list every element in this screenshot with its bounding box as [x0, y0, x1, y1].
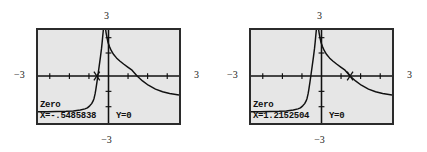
calculator-screens-page: 3 −3 3 −3: [0, 0, 427, 152]
calculator-screen-right[interactable]: Zero X=1.2152504 Y=0: [249, 28, 394, 125]
window-ymin-label: −3: [0, 135, 213, 145]
calculator-panel-right: 3 −3 3 −3: [213, 0, 426, 152]
calculator-screen-left[interactable]: Zero X=-.5485838 Y=0: [36, 28, 181, 125]
curve-right-branch: [106, 30, 179, 95]
graph-plot-right: [251, 30, 392, 123]
window-xmin-label: −3: [227, 70, 238, 80]
graph-plot-left: [38, 30, 179, 123]
curve-left-branch: [251, 30, 316, 112]
curve-left-branch: [38, 30, 103, 112]
window-ymax-label: 3: [213, 11, 426, 21]
curve-right-branch: [319, 30, 392, 95]
window-ymin-label: −3: [213, 135, 426, 145]
calculator-panel-left: 3 −3 3 −3: [0, 0, 213, 152]
window-ymax-label: 3: [0, 11, 213, 21]
window-xmax-label: 3: [194, 70, 199, 80]
window-xmin-label: −3: [14, 70, 25, 80]
window-xmax-label: 3: [407, 70, 412, 80]
